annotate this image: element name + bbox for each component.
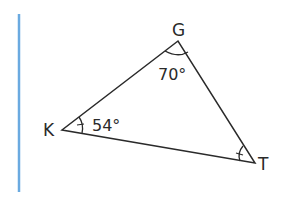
angle-label-g: 70°: [158, 65, 186, 84]
vertex-label-k: K: [43, 120, 55, 140]
angle-label-k: 54°: [92, 116, 120, 135]
triangle-figure: G K T 70° 54°: [0, 0, 287, 199]
diagram-canvas: G K T 70° 54°: [0, 0, 287, 199]
triangle-gkt: [62, 41, 255, 163]
vertex-label-t: T: [257, 154, 269, 174]
vertex-label-g: G: [172, 20, 185, 40]
